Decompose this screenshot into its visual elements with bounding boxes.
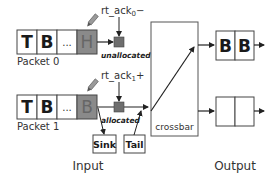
output-0-buffer: B B (216, 31, 254, 60)
packet-1-state-square (114, 102, 124, 112)
rt-ack-1-label: rt_ack1+ (101, 70, 144, 83)
output-0-cell-1-text: B (219, 36, 232, 56)
output-1-cell-1 (216, 97, 235, 126)
packet-1-head-text: B (81, 97, 93, 117)
packet-0-state-square (114, 37, 124, 47)
output-1-cell-2 (235, 97, 254, 126)
tail-label: Tail (125, 139, 143, 150)
packet-1-label: Packet 1 (17, 121, 59, 132)
output-1-buffer (216, 97, 254, 126)
rt-ack-0-label: rt_ack0− (101, 5, 144, 18)
router-diagram: T B ... H Packet 0 rt_ack0− unallocated … (0, 0, 276, 179)
input-section-label: Input (72, 159, 103, 173)
pencil-icon (86, 14, 99, 28)
packet-0-state-label: unallocated (101, 51, 151, 60)
pencil-icon (86, 79, 99, 93)
packet-0-label: Packet 0 (17, 56, 59, 67)
packet-0-cell-3-text: ... (62, 37, 72, 48)
packet-1-buffer: T B ... B (17, 95, 97, 119)
sink-label: Sink (93, 139, 117, 150)
packet-1-cell-1-text: T (21, 97, 33, 117)
packet-1-cell-3-text: ... (62, 102, 72, 113)
packet-1-state-label: allocated (101, 116, 141, 125)
output-0-cell-2-text: B (238, 36, 251, 56)
packet-0-buffer: T B ... H (17, 30, 97, 54)
packet-0-cell-2-text: B (41, 32, 54, 52)
packet-0-head-text: H (81, 32, 94, 52)
packet-1-cell-2-text: B (41, 97, 54, 117)
crossbar-label: crossbar (155, 122, 194, 132)
output-section-label: Output (214, 159, 256, 173)
crossbar-box (151, 22, 198, 136)
packet-0-cell-1-text: T (21, 32, 33, 52)
